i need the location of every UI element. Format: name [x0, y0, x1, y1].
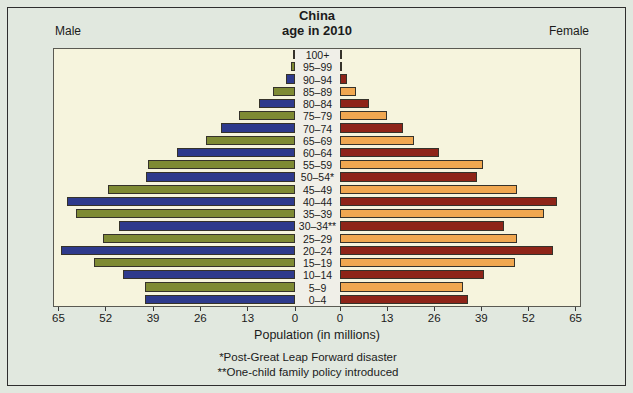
- female-bar-30–34**: [340, 221, 504, 230]
- male-bar-row: [54, 122, 295, 134]
- male-bar-90–94: [286, 74, 295, 83]
- female-bars-column: [340, 49, 580, 306]
- age-group-label: 85–89: [295, 86, 340, 98]
- female-bar-row: [340, 122, 580, 134]
- female-bar-20–24: [340, 246, 553, 255]
- age-group-label: 80–84: [295, 98, 340, 110]
- age-group-label: 10–14: [295, 269, 340, 281]
- male-bar-30–34**: [119, 221, 295, 230]
- axis-tick-label: 52: [99, 312, 112, 324]
- male-bar-row: [54, 73, 295, 85]
- age-group-label: 60–64: [295, 147, 340, 159]
- male-bar-35–39: [76, 209, 295, 218]
- male-bar-40–44: [67, 197, 295, 206]
- male-bar-60–64: [177, 148, 295, 157]
- male-bar-5–9: [145, 282, 295, 291]
- axis-tick-label: 13: [241, 312, 254, 324]
- male-bar-50–54*: [146, 172, 295, 181]
- footnotes: *Post-Great Leap Forward disaster **One-…: [28, 350, 588, 380]
- axis-tick-label: 0: [337, 312, 343, 324]
- female-bar-row: [340, 281, 580, 293]
- axis-tick-label: 26: [194, 312, 207, 324]
- female-bar-row: [340, 61, 580, 73]
- male-bar-85–89: [273, 87, 295, 96]
- axis-tick-label: 0: [292, 312, 298, 324]
- female-bar-row: [340, 269, 580, 281]
- chart-title-line2: age in 2010: [53, 23, 581, 38]
- chart-title: China age in 2010: [53, 8, 581, 38]
- female-bar-75–79: [340, 111, 387, 120]
- male-bar-row: [54, 196, 295, 208]
- male-bar-65–69: [206, 136, 295, 145]
- male-bar-row: [54, 281, 295, 293]
- age-group-label: 45–49: [295, 184, 340, 196]
- female-bar-95–99: [340, 62, 342, 71]
- axis-tick-label: 65: [52, 312, 65, 324]
- age-group-label: 20–24: [295, 245, 340, 257]
- female-bar-row: [340, 233, 580, 245]
- axis-tick-label: 26: [428, 312, 441, 324]
- male-bar-row: [54, 159, 295, 171]
- female-bar-row: [340, 171, 580, 183]
- male-bar-row: [54, 61, 295, 73]
- axis-tick-mark: [528, 307, 529, 311]
- male-axis-ticks: 01326395265: [53, 307, 295, 329]
- axis-tick-mark: [200, 307, 201, 311]
- male-bar-row: [54, 269, 295, 281]
- axis-tick-mark: [340, 307, 341, 311]
- male-bar-10–14: [123, 270, 295, 279]
- female-bar-row: [340, 208, 580, 220]
- female-bar-55–59: [340, 160, 483, 169]
- female-bar-50–54*: [340, 172, 477, 181]
- male-bar-95–99: [291, 62, 295, 71]
- male-bar-row: [54, 257, 295, 269]
- age-group-label: 30–34**: [295, 220, 340, 232]
- age-group-label: 50–54*: [295, 171, 340, 183]
- axis-tick-mark: [575, 307, 576, 311]
- male-bar-75–79: [239, 111, 295, 120]
- male-bar-25–29: [103, 234, 295, 243]
- male-side-label: Male: [55, 24, 81, 38]
- female-bar-80–84: [340, 99, 369, 108]
- female-bar-70–74: [340, 123, 403, 132]
- axis-tick-label: 39: [147, 312, 160, 324]
- population-pyramid-figure: China age in 2010 Male Female 100+95–999…: [0, 0, 633, 393]
- age-group-label: 35–39: [295, 208, 340, 220]
- male-bar-row: [54, 233, 295, 245]
- axis-tick-label: 65: [569, 312, 582, 324]
- axis-tick-label: 13: [381, 312, 394, 324]
- age-group-label: 90–94: [295, 73, 340, 85]
- female-bar-row: [340, 220, 580, 232]
- male-bar-80–84: [259, 99, 295, 108]
- female-bar-row: [340, 196, 580, 208]
- male-bar-row: [54, 49, 295, 61]
- male-bar-row: [54, 208, 295, 220]
- male-bar-45–49: [108, 185, 295, 194]
- axis-tick-mark: [105, 307, 106, 311]
- female-bar-60–64: [340, 148, 439, 157]
- female-bar-40–44: [340, 197, 557, 206]
- female-bar-15–19: [340, 258, 515, 267]
- plot-area: 100+95–9990–9485–8980–8475–7970–7465–696…: [53, 48, 581, 307]
- footnote-one-child-policy: **One-child family policy introduced: [28, 365, 588, 380]
- male-bar-row: [54, 86, 295, 98]
- axis-tick-label: 39: [475, 312, 488, 324]
- female-bar-85–89: [340, 87, 356, 96]
- male-bar-70–74: [221, 123, 295, 132]
- female-bar-row: [340, 245, 580, 257]
- female-bar-35–39: [340, 209, 544, 218]
- female-bar-10–14: [340, 270, 484, 279]
- male-bars-column: [54, 49, 295, 306]
- male-bar-row: [54, 171, 295, 183]
- female-bar-row: [340, 147, 580, 159]
- axis-tick-mark: [387, 307, 388, 311]
- female-side-label: Female: [549, 24, 589, 38]
- male-bar-row: [54, 294, 295, 306]
- female-bar-row: [340, 49, 580, 61]
- female-bar-5–9: [340, 282, 463, 291]
- axis-tick-mark: [481, 307, 482, 311]
- axis-tick-mark: [58, 307, 59, 311]
- female-bar-row: [340, 159, 580, 171]
- female-axis-ticks: 01326395265: [340, 307, 581, 329]
- female-bar-45–49: [340, 185, 517, 194]
